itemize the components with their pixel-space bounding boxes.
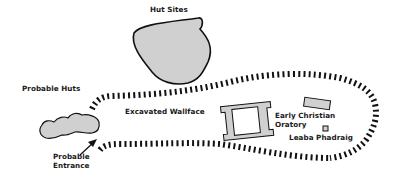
- label-leaba-phadraig: Leaba Phadraig: [289, 134, 353, 143]
- hut-sites-blob: [133, 18, 210, 84]
- probable-huts-blob: [40, 113, 99, 138]
- label-entrance-line2: Entrance: [53, 162, 90, 171]
- label-excavated-wallface: Excavated Wallface: [125, 108, 205, 117]
- label-hut-sites: Hut Sites: [150, 6, 188, 15]
- label-oratory-line2: Oratory: [275, 121, 335, 130]
- label-early-christian-oratory: Early Christian Oratory: [275, 112, 335, 129]
- label-probable-entrance: Probable Entrance: [53, 153, 90, 170]
- enclosure-wall-bottom: [100, 143, 330, 158]
- oratory-building: [220, 101, 273, 140]
- label-probable-huts: Probable Huts: [22, 85, 80, 94]
- rectangular-structure: [304, 97, 331, 110]
